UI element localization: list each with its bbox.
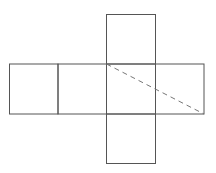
face-bottom	[107, 114, 156, 164]
face-top	[107, 15, 156, 65]
cube-net-diagram	[0, 0, 216, 173]
face-center	[107, 64, 156, 114]
faces-group	[10, 15, 205, 164]
face-center-left	[58, 64, 107, 114]
cube-net-svg	[0, 0, 216, 173]
face-left	[10, 64, 59, 114]
face-right	[156, 64, 205, 114]
